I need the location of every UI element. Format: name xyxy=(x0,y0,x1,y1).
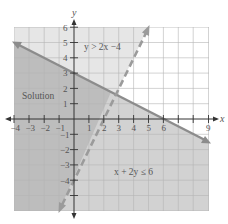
x-axis-label: x xyxy=(219,113,225,124)
y-tick-label: −1 xyxy=(60,130,70,140)
inequality-label-x-plus-2y-le-6: x + 2y ≤ 6 xyxy=(114,167,153,177)
y-tick-label: −3 xyxy=(60,160,70,170)
y-tick-label: −2 xyxy=(60,145,70,155)
y-axis-arrow-bottom xyxy=(72,213,77,219)
y-tick-label: −4 xyxy=(60,176,70,186)
x-tick-label: −3 xyxy=(26,123,36,133)
inequality-label-y-gt-2x-minus-4: y > 2x −4 xyxy=(84,42,121,52)
x-tick-label: 1 xyxy=(87,123,92,133)
x-axis-arrow-right xyxy=(213,117,219,122)
y-axis-arrow-top xyxy=(72,19,77,25)
y-tick-label: 1 xyxy=(63,99,68,109)
x-axis-arrow-left xyxy=(5,117,11,122)
y-axis-label: y xyxy=(71,7,77,18)
x-tick-label: 9 xyxy=(206,123,211,133)
x-tick-label: 5 xyxy=(147,123,152,133)
x-tick-label: −4 xyxy=(11,123,21,133)
x-tick-label: 4 xyxy=(132,123,137,133)
x-tick-label: 2 xyxy=(102,123,107,133)
x-tick-label: 3 xyxy=(117,123,122,133)
x-tick-label: 6 xyxy=(162,123,167,133)
solution-label: Solution xyxy=(22,91,54,101)
y-tick-label: 6 xyxy=(63,23,68,33)
y-tick-label: 5 xyxy=(63,38,68,48)
y-tick-label: 2 xyxy=(63,84,68,94)
inequality-graph: −4 −3 −2 −1 1 2 3 4 5 6 9 6 5 4 3 2 1 −1… xyxy=(0,0,228,224)
y-tick-label: 4 xyxy=(63,53,68,63)
y-tick-label: 3 xyxy=(63,68,68,78)
x-tick-label: −2 xyxy=(41,123,51,133)
